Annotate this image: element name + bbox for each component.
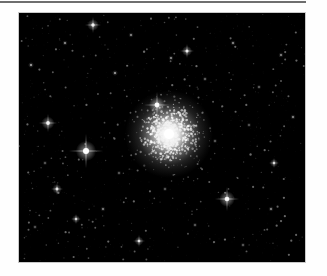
horizontal-rule (0, 1, 306, 3)
medium-star-10 (268, 206, 273, 211)
astro-image-plate (18, 12, 306, 263)
medium-star-8 (278, 52, 283, 57)
medium-star-5 (203, 77, 208, 82)
star-field-canvas (19, 13, 305, 262)
medium-star-1 (62, 40, 67, 45)
medium-star-17 (33, 225, 38, 230)
medium-star-12 (193, 223, 198, 228)
medium-star-9 (290, 114, 295, 119)
medium-star-15 (100, 206, 105, 211)
page-root (0, 0, 327, 276)
medium-star-7 (257, 85, 262, 90)
medium-star-19 (247, 123, 252, 128)
medium-star-11 (241, 243, 246, 248)
medium-star-2 (112, 70, 118, 76)
medium-star-0 (28, 62, 34, 68)
medium-star-4 (168, 55, 173, 60)
medium-star-6 (230, 40, 235, 45)
medium-star-18 (213, 139, 218, 144)
medium-star-3 (128, 32, 133, 37)
medium-star-14 (117, 171, 122, 176)
medium-star-13 (163, 187, 168, 192)
medium-star-16 (43, 161, 48, 166)
